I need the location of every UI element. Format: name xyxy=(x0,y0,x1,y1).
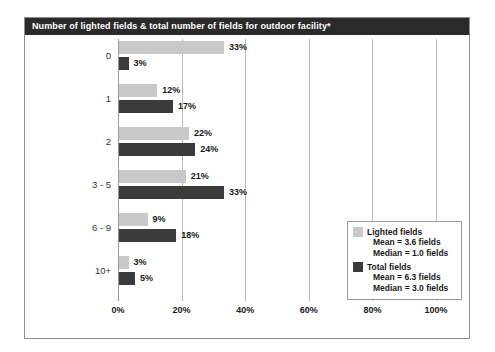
bar-group: 22%24% xyxy=(119,127,436,156)
bar-row: 12% xyxy=(119,84,436,97)
value-axis-labels: 0%20%40%60%80%100% xyxy=(118,305,436,321)
bar-value-label: 21% xyxy=(191,171,209,181)
category-label: 3 - 5 xyxy=(31,179,111,190)
bar-group: 21%33% xyxy=(119,170,436,199)
chart-legend: Lighted fields Mean = 3.6 fields Median … xyxy=(347,221,462,300)
bar-group: 33%3% xyxy=(119,41,436,70)
value-tick-label: 100% xyxy=(424,305,447,315)
bar[interactable] xyxy=(119,272,135,285)
legend-mean-lighted-fields: Mean = 3.6 fields xyxy=(373,237,455,248)
legend-mean-total-fields: Mean = 6.3 fields xyxy=(373,272,455,283)
legend-median-total-fields: Median = 3.0 fields xyxy=(373,283,455,294)
category-label: 6 - 9 xyxy=(31,222,111,233)
value-tick-label: 20% xyxy=(173,305,191,315)
category-label: 10+ xyxy=(31,265,111,276)
legend-swatch-lighted-fields xyxy=(353,227,363,237)
bar[interactable] xyxy=(119,143,195,156)
legend-label-total-fields: Total fields xyxy=(367,262,411,272)
legend-swatch-total-fields xyxy=(353,262,363,272)
bar-row: 22% xyxy=(119,127,436,140)
bar-value-label: 24% xyxy=(200,144,218,154)
bar[interactable] xyxy=(119,213,148,226)
bar-value-label: 22% xyxy=(194,128,212,138)
bar[interactable] xyxy=(119,84,157,97)
bar-value-label: 33% xyxy=(229,187,247,197)
bar[interactable] xyxy=(119,186,224,199)
bar-group: 12%17% xyxy=(119,84,436,113)
bar[interactable] xyxy=(119,229,176,242)
legend-label-lighted-fields: Lighted fields xyxy=(367,227,422,237)
legend-entry-lighted-fields: Lighted fields Mean = 3.6 fields Median … xyxy=(353,227,455,258)
bar-value-label: 3% xyxy=(134,58,147,68)
legend-median-lighted-fields: Median = 1.0 fields xyxy=(373,248,455,259)
bar-row: 21% xyxy=(119,170,436,183)
bar-value-label: 12% xyxy=(162,85,180,95)
bar-value-label: 3% xyxy=(134,257,147,267)
bar[interactable] xyxy=(119,100,173,113)
bar[interactable] xyxy=(119,41,224,54)
bar-value-label: 33% xyxy=(229,42,247,52)
bar[interactable] xyxy=(119,170,186,183)
bar-value-label: 17% xyxy=(178,101,196,111)
category-label: 0 xyxy=(31,50,111,61)
category-axis-labels: 0123 - 56 - 910+ xyxy=(25,39,111,301)
value-tick-label: 40% xyxy=(236,305,254,315)
bar-row: 33% xyxy=(119,186,436,199)
chart-frame: Number of lighted fields & total number … xyxy=(24,17,470,339)
chart-title: Number of lighted fields & total number … xyxy=(32,21,331,31)
value-tick-label: 0% xyxy=(111,305,124,315)
bar[interactable] xyxy=(119,256,129,269)
bar-row: 17% xyxy=(119,100,436,113)
chart-title-bar: Number of lighted fields & total number … xyxy=(25,18,469,35)
bar-value-label: 5% xyxy=(140,273,153,283)
bar-value-label: 18% xyxy=(181,230,199,240)
bar-row: 24% xyxy=(119,143,436,156)
bar[interactable] xyxy=(119,57,129,70)
bar-row: 3% xyxy=(119,57,436,70)
category-label: 1 xyxy=(31,93,111,104)
value-tick-label: 80% xyxy=(363,305,381,315)
legend-entry-total-fields: Total fields Mean = 6.3 fields Median = … xyxy=(353,262,455,293)
value-tick-label: 60% xyxy=(300,305,318,315)
bar-value-label: 9% xyxy=(153,214,166,224)
bar-row: 33% xyxy=(119,41,436,54)
category-label: 2 xyxy=(31,136,111,147)
bar[interactable] xyxy=(119,127,189,140)
